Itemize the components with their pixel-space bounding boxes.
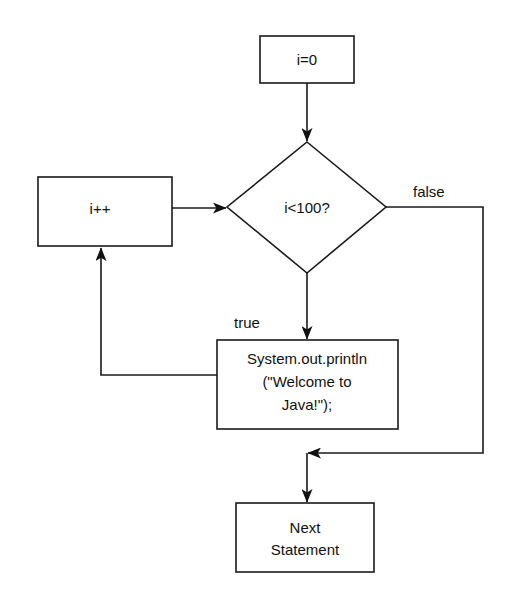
node-next-line-2: Statement <box>271 541 340 558</box>
node-body-line-2: ("Welcome to <box>262 373 351 390</box>
node-increment-text: i++ <box>90 200 111 217</box>
node-body: System.out.println ("Welcome to Java!"); <box>217 340 398 429</box>
node-increment: i++ <box>38 177 172 246</box>
edge-label-false: false <box>413 183 445 200</box>
flowchart-canvas: i=0 i<100? i++ System.out.println ("Welc… <box>0 0 510 604</box>
node-body-line-3: Java!"); <box>282 396 332 413</box>
node-init: i=0 <box>260 36 354 83</box>
node-next-line-1: Next <box>290 519 322 536</box>
node-next: Next Statement <box>236 503 374 572</box>
node-condition: i<100? <box>227 142 386 273</box>
node-body-line-1: System.out.println <box>247 350 367 367</box>
node-condition-text: i<100? <box>284 199 329 216</box>
node-init-text: i=0 <box>297 51 317 68</box>
edge-body-to-increment <box>101 248 217 375</box>
edge-label-true: true <box>234 314 260 331</box>
